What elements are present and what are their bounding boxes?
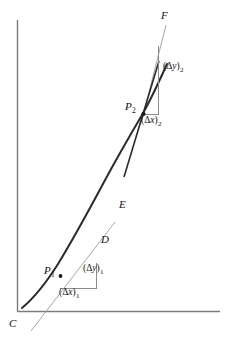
label-delta-x-2: (Δx)2: [141, 116, 161, 126]
label-point-p2-subscript: 2: [132, 106, 136, 115]
label-delta-y-2: (Δy)2: [163, 62, 183, 72]
label-point-c: C: [9, 318, 16, 329]
label-point-p2-base: P: [125, 100, 132, 112]
label-delta-x-1: (Δx)1: [59, 288, 79, 298]
label-point-p1: P1: [44, 265, 54, 276]
label-point-p1-subscript: 1: [51, 270, 55, 279]
figure-container: C D E F P1 P2 (Δy)1 (Δx)1 (Δy)2 (Δx)2: [0, 0, 231, 340]
delta-y-1-subscript: 1: [100, 268, 104, 276]
label-point-d: D: [101, 234, 109, 245]
delta-x-1-subscript: 1: [76, 292, 80, 300]
delta-x-2-subscript: 2: [158, 120, 162, 128]
label-point-p1-base: P: [44, 264, 51, 276]
delta-y-2-subscript: 2: [180, 66, 184, 74]
label-delta-y-1: (Δy)1: [83, 264, 103, 274]
label-point-e: E: [119, 199, 126, 210]
label-point-p2: P2: [125, 101, 135, 112]
diagram-canvas: [0, 0, 231, 340]
point-marker-p1: [59, 274, 63, 278]
label-point-f: F: [161, 10, 168, 21]
